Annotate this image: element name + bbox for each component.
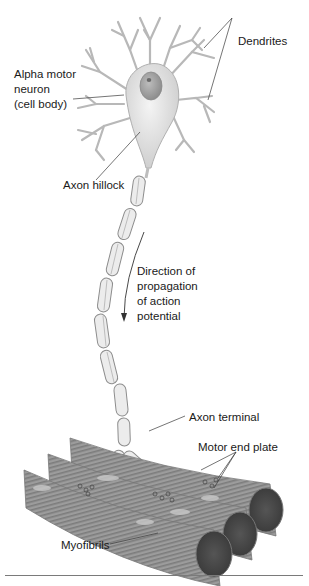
label-direction-1: Direction of [137, 264, 195, 278]
label-axon-terminal: Axon terminal [189, 410, 259, 424]
label-cell-body-2: neuron [14, 82, 50, 96]
label-cell-body-3: (cell body) [14, 97, 67, 111]
label-direction-3: of action [137, 294, 180, 308]
nucleus [140, 72, 162, 100]
label-myofibrils: Myofibrils [61, 538, 110, 552]
label-direction-2: propagation [137, 279, 198, 293]
label-axon-hillock: Axon hillock [63, 178, 124, 192]
label-motor-end-plate: Motor end plate [198, 440, 278, 454]
label-dendrites: Dendrites [238, 34, 287, 48]
bottom-divider [5, 575, 303, 576]
label-cell-body-1: Alpha motor [14, 67, 76, 81]
label-direction-4: potential [137, 309, 180, 323]
muscle-fibers [24, 438, 283, 586]
motor-neuron-diagram: Dendrites Alpha motor neuron (cell body)… [0, 0, 309, 586]
